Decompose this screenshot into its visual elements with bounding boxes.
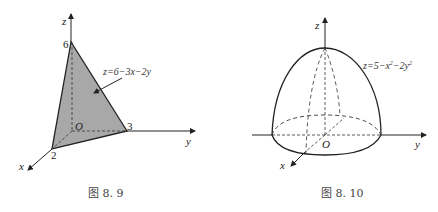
- z-axis-label: z: [315, 20, 319, 31]
- equation-part: z=5−x: [363, 60, 390, 71]
- z-intercept-label: 6: [63, 39, 69, 50]
- paraboloid-equation: z=5−x2−2y2: [363, 60, 412, 71]
- origin-label: O: [322, 139, 330, 150]
- figure-8-10: z z=5−x2−2y2 O y x 图 8. 10: [219, 0, 438, 212]
- figure-caption: 图 8. 10: [321, 184, 364, 200]
- y-axis-label: y: [415, 139, 420, 150]
- x-axis-label: x: [280, 160, 285, 171]
- plane-equation: z=6−3x−2y: [103, 67, 151, 77]
- plane-tetrahedron-diagram: [0, 0, 219, 212]
- figure-caption: 图 8. 9: [88, 184, 124, 200]
- plane-triangle: [52, 42, 127, 149]
- equation-part: −2y: [393, 60, 409, 71]
- z-axis-label: z: [62, 16, 66, 27]
- x-intercept-label: 2: [51, 150, 57, 161]
- y-axis-label: y: [186, 136, 191, 147]
- y-intercept-label: 3: [127, 121, 133, 132]
- equation-exponent: 2: [409, 60, 412, 66]
- paraboloid-diagram: [219, 0, 438, 212]
- origin-label: O: [75, 121, 83, 132]
- figure-8-9: z 6 z=6−3x−2y O 3 y 2 x 图 8. 9: [0, 0, 219, 212]
- x-axis-label: x: [19, 161, 24, 172]
